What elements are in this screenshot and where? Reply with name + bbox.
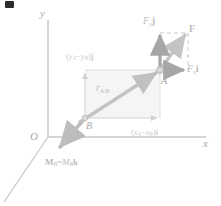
figure-drawing: [0, 0, 221, 206]
figure-canvas: y x O A B F Fyj Fxi rA/B (yA−yB)j (xA−xB…: [0, 0, 221, 206]
force-x-component-label: Fxi: [187, 64, 199, 74]
force-vector-f: [160, 35, 185, 70]
force-label-f: F: [189, 24, 195, 34]
point-a-marker: [157, 67, 164, 74]
point-a-label: A: [161, 76, 167, 86]
point-b-label: B: [86, 121, 92, 131]
delta-y-component-label: (yA−yB)j: [66, 52, 93, 61]
z-axis: [4, 137, 48, 202]
force-y-component-label: Fyj: [143, 16, 155, 26]
origin-label: O: [30, 131, 38, 142]
position-vector-label: rA/B: [96, 83, 109, 93]
delta-x-component-label: (xA−xB)i: [131, 128, 158, 137]
x-axis-label: x: [203, 138, 208, 149]
y-axis-label: y: [40, 8, 45, 19]
moment-vector-label: MB=MBk: [45, 158, 78, 167]
moment-vector-mb: [60, 117, 86, 147]
